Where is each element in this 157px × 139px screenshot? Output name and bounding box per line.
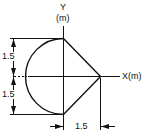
x-axis-label: X(m): [122, 72, 142, 81]
arrow-down-bottom: [11, 106, 16, 114]
arrow-down-mid: [11, 68, 16, 76]
dimension-horizontal: 1.5: [75, 122, 88, 131]
arrow-up-top: [11, 39, 16, 47]
arrow-up-mid: [11, 77, 16, 85]
y-axis-unit: (m): [56, 14, 70, 23]
arrow-left-right: [101, 124, 109, 129]
arrow-right-left: [55, 124, 63, 129]
y-axis-label: Y: [60, 3, 66, 12]
dimension-upper-vertical: 1.5: [2, 52, 15, 61]
dimension-lower-vertical: 1.5: [2, 90, 15, 99]
section-diagram: [0, 0, 157, 139]
